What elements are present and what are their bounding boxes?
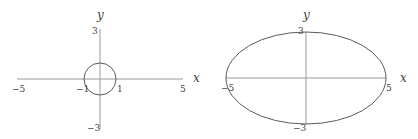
circle-plot-x-tick-neg1: −1: [76, 84, 89, 94]
circle-plot: y x 3 −3 −5 −1 1 5: [12, 8, 200, 133]
circle-plot-y-tick-neg3: −3: [87, 123, 101, 133]
circle-plot-x-tick-5: 5: [180, 84, 186, 94]
circle-plot-y-label: y: [96, 8, 104, 22]
circle-plot-x-tick-1: 1: [117, 84, 123, 94]
ellipse-plot-y-tick-neg3: −3: [293, 123, 307, 133]
ellipse-plot-x-tick-neg5: −5: [221, 83, 235, 93]
circle-plot-x-tick-neg5: −5: [12, 84, 26, 94]
circle-plot-x-label: x: [193, 71, 200, 85]
ellipse-plot-x-tick-5: 5: [386, 83, 392, 93]
ellipse-plot-y-label: y: [302, 8, 310, 22]
ellipse-plot-y-tick-3: 3: [298, 26, 304, 36]
circle-plot-y-tick-3: 3: [92, 26, 98, 36]
figure: y x 3 −3 −5 −1 1 5 y x 3 −3 −5 5: [0, 0, 418, 139]
ellipse-plot: y x 3 −3 −5 5: [221, 8, 407, 133]
ellipse-plot-x-label: x: [400, 71, 407, 85]
